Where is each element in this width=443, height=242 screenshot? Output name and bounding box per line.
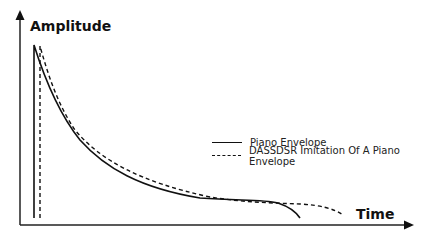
dashed-line-icon bbox=[212, 155, 241, 156]
solid-line-icon bbox=[212, 142, 242, 143]
x-axis-label: Time bbox=[356, 206, 394, 222]
legend-label: DASSDSR Imitation Of A Piano Envelope bbox=[249, 145, 443, 167]
legend: Piano Envelope DASSDSR Imitation Of A Pi… bbox=[212, 136, 443, 162]
y-axis-arrow-icon bbox=[16, 10, 25, 20]
y-axis-label: Amplitude bbox=[30, 18, 111, 34]
x-axis-arrow-icon bbox=[404, 221, 414, 230]
envelope-diagram: Amplitude Time Piano Envelope DASSDSR Im… bbox=[0, 0, 443, 242]
legend-item-dassdsr: DASSDSR Imitation Of A Piano Envelope bbox=[212, 149, 443, 162]
piano-envelope-curve bbox=[34, 45, 300, 218]
dassdsr-envelope-curve bbox=[40, 46, 343, 218]
